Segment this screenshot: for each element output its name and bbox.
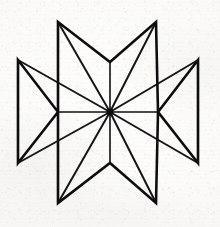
spoke-to-tip-top-left [58,22,110,112]
star-ink-group [18,22,198,203]
center-ink-blot [107,109,114,116]
eight-pointed-star-drawing [0,0,220,227]
spoke-to-tip-left-upper [18,60,110,112]
artwork-canvas [0,0,220,227]
